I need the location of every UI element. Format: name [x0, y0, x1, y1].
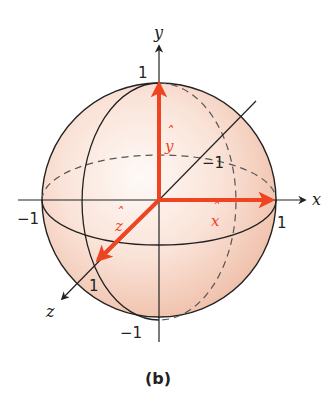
x-axis-label: x — [312, 190, 321, 209]
z-axis-label: z — [45, 302, 55, 321]
x-neg-tick: −1 — [17, 210, 39, 228]
y-neg-tick: −1 — [120, 324, 142, 342]
z-neg-tick: −1 — [202, 154, 224, 172]
x-hat-label: ˆ x — [211, 199, 220, 230]
y-hat-label: ˆ y — [164, 123, 174, 155]
z-pos-tick: 1 — [89, 277, 99, 295]
svg-text:y: y — [164, 137, 174, 155]
figure-caption: (b) — [145, 369, 171, 388]
x-pos-tick: 1 — [277, 214, 287, 232]
svg-text:x: x — [211, 212, 220, 230]
y-pos-tick: 1 — [138, 64, 148, 82]
unit-sphere-figure: y x z 1 −1 1 −1 1 −1 ˆ y ˆ x ˆ z (b) — [0, 0, 328, 401]
y-axis-label: y — [153, 23, 164, 42]
z-hat-label: ˆ z — [114, 204, 124, 235]
svg-text:z: z — [114, 217, 123, 235]
origin-point — [157, 198, 162, 203]
